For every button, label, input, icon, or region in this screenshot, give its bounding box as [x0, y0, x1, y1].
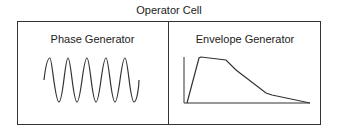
diagram-graphics: [0, 0, 338, 134]
sine-wave-icon: [44, 58, 139, 102]
envelope-curve-icon: [184, 57, 310, 103]
